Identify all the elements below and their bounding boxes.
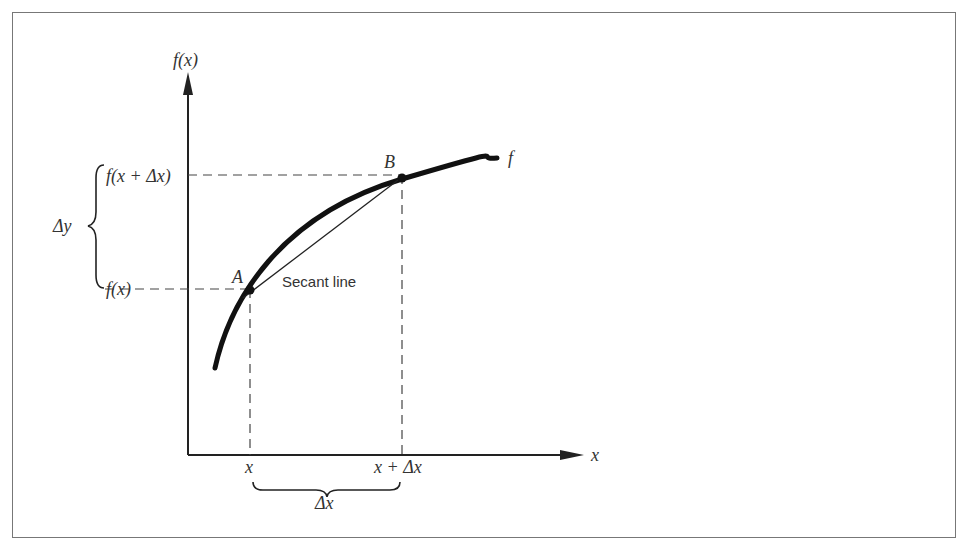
delta-x-label: Δx xyxy=(314,493,334,513)
x-tick-left: x xyxy=(244,457,253,477)
delta-y-brace xyxy=(88,165,104,288)
y-axis-label: f(x) xyxy=(173,50,198,71)
delta-y-label: Δy xyxy=(52,216,72,236)
point-b-label: B xyxy=(384,152,395,172)
secant-line-diagram: f(x) x f A B Secant line f(x + Δx) f(x) … xyxy=(0,0,969,546)
x-axis-arrow-icon xyxy=(560,450,584,460)
x-tick-right: x + Δx xyxy=(373,457,422,477)
curve-f xyxy=(215,156,497,368)
y-tick-lower: f(x) xyxy=(106,279,131,300)
axes xyxy=(183,72,584,460)
point-b xyxy=(398,174,407,183)
y-tick-upper: f(x + Δx) xyxy=(106,166,171,187)
secant-label: Secant line xyxy=(282,273,356,290)
x-axis-label: x xyxy=(590,445,599,465)
point-a-label: A xyxy=(231,267,244,287)
curve-label: f xyxy=(508,148,516,168)
point-a xyxy=(246,286,255,295)
y-axis-arrow-icon xyxy=(183,72,193,95)
guide-lines xyxy=(105,175,402,455)
